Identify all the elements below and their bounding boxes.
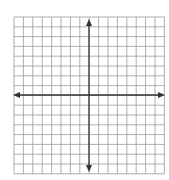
coordinate-plane (0, 0, 169, 180)
arrow-up-icon (86, 19, 92, 26)
arrow-down-icon (86, 165, 92, 172)
arrow-right-icon (158, 92, 165, 98)
axes (13, 19, 165, 172)
